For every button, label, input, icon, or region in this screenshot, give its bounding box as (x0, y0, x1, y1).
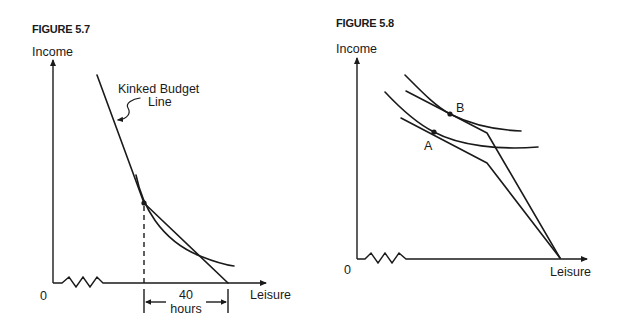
figure-5-8: FIGURE 5.8 Income 0 Leisure B A (336, 17, 591, 279)
figure-5-8-point-a-label: A (424, 139, 433, 153)
figure-5-8-y-axis-label: Income (336, 42, 377, 56)
figure-5-7-title: FIGURE 5.7 (32, 23, 90, 35)
figure-5-7-y-axis-label: Income (32, 45, 73, 59)
figure-5-8-title: FIGURE 5.8 (336, 17, 394, 29)
figure-5-7-budget-label-line1: Kinked Budget (118, 82, 200, 96)
figure-5-8-x-axis (357, 253, 587, 263)
figure-5-8-x-axis-label: Leisure (550, 265, 591, 279)
figure-5-8-point-b-label: B (456, 101, 464, 115)
figure-5-7-x-axis (53, 277, 266, 287)
figure-5-8-point-b (447, 111, 452, 116)
figure-5-7: FIGURE 5.7 Income 0 Leisure 40 hours Kin… (32, 23, 291, 316)
figure-5-7-origin-label: 0 (40, 289, 47, 303)
figure-5-7-indifference-curve (136, 175, 234, 266)
figure-5-7-bracket-value: 40 (179, 288, 193, 302)
figures-canvas: FIGURE 5.7 Income 0 Leisure 40 hours Kin… (0, 0, 622, 329)
figure-5-7-budget-label-line2: Line (148, 95, 172, 109)
figure-5-8-upper-budget-line (406, 91, 560, 258)
figure-5-7-bracket-unit: hours (170, 302, 201, 316)
figure-5-7-x-axis-label: Leisure (250, 288, 291, 302)
figure-5-7-label-pointer-arrow (118, 98, 140, 120)
figure-5-7-kink-point (141, 200, 146, 205)
figure-5-8-origin-label: 0 (344, 263, 351, 277)
figure-5-8-point-a (431, 129, 436, 134)
